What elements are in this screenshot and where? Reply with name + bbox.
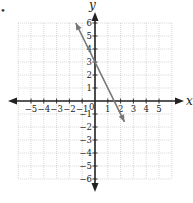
x-tick-label: −2: [63, 104, 76, 114]
y-axis-up-arrow-icon: [92, 12, 99, 21]
y-tick-label: −3: [79, 135, 92, 145]
x-axis-label: x: [186, 94, 193, 108]
x-axis-left-arrow-icon: [8, 98, 17, 105]
y-tick-label: 5: [87, 31, 92, 41]
x-tick-label: −3: [50, 104, 63, 114]
y-tick-label: −2: [79, 122, 92, 132]
y-axis-label: y: [88, 0, 96, 12]
y-tick-label: 2: [87, 70, 92, 80]
y-tick-label: −5: [79, 161, 92, 171]
y-tick-label: 6: [87, 18, 92, 28]
x-tick-label: 4: [143, 104, 148, 114]
y-axis-down-arrow-icon: [92, 183, 99, 192]
x-tick-label: 3: [131, 104, 136, 114]
y-tick-label: −4: [79, 148, 92, 158]
coordinate-plane: x y −5−4−3−2−112345654321−1−2−3−4−5−6 0 …: [0, 0, 193, 203]
origin-label: 0: [89, 102, 94, 112]
y-tick-label: 3: [87, 57, 92, 67]
y-tick-label: −6: [79, 174, 92, 184]
x-tick-label: −5: [25, 104, 38, 114]
x-tick-label: 5: [156, 104, 161, 114]
y-tick-label: 1: [87, 83, 92, 93]
x-axis-right-arrow-icon: [175, 98, 184, 105]
x-tick-label: −4: [38, 104, 51, 114]
x-tick-label: 1: [105, 104, 110, 114]
bullet-marker: •: [0, 5, 6, 16]
